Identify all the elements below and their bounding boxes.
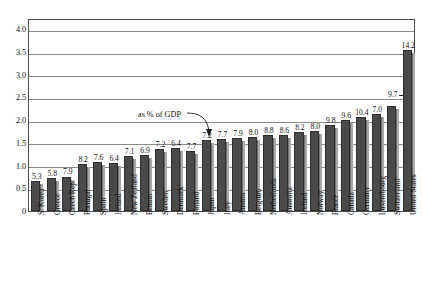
y-tick-label: 1.5 bbox=[2, 140, 26, 148]
bar-group[interactable] bbox=[277, 20, 292, 211]
bar-group[interactable] bbox=[29, 20, 44, 211]
x-tick-label: Finland bbox=[193, 192, 201, 215]
bar-group[interactable] bbox=[199, 20, 214, 211]
bars-layer: 5.35.87.98.27.66.47.16.97.26.47.77.27.77… bbox=[29, 20, 414, 211]
bar-group[interactable] bbox=[246, 20, 261, 211]
y-tick-label: 4.0 bbox=[2, 26, 26, 34]
bar-group[interactable] bbox=[91, 20, 106, 211]
y-tick-label: 3.5 bbox=[2, 49, 26, 57]
bar-group[interactable] bbox=[184, 20, 199, 211]
x-tick-label: Luxembourg bbox=[379, 176, 387, 215]
x-tick-label: Britain bbox=[146, 194, 154, 215]
y-tick-label: 2.5 bbox=[2, 94, 26, 102]
x-tick-label: Norway bbox=[317, 191, 325, 215]
x-tick-label: Sweden bbox=[162, 191, 170, 215]
x-tick-label: Spain bbox=[100, 198, 108, 215]
x-tick-label: France bbox=[332, 194, 340, 215]
x-tick-label: Belgium bbox=[255, 189, 263, 215]
x-tick-label: Germany bbox=[363, 187, 371, 215]
bar-group[interactable] bbox=[230, 20, 245, 211]
x-tick-label: Canada bbox=[348, 192, 356, 215]
bar-group[interactable] bbox=[292, 20, 307, 211]
x-tick-label: New Zealand bbox=[131, 174, 139, 215]
x-tick-label: Italy bbox=[224, 201, 232, 215]
y-tick-label: 0 bbox=[2, 208, 26, 216]
x-axis: S. KoreaGreeceCzech Rep.PortugalSpainIre… bbox=[28, 213, 415, 285]
bar-chart: 00.51.01.52.02.53.03.54.0 5.35.87.98.27.… bbox=[0, 0, 423, 285]
x-tick-label: Greece bbox=[54, 194, 62, 216]
y-tick-label: 1.0 bbox=[2, 163, 26, 171]
x-tick-label: Switzerland bbox=[394, 179, 402, 215]
y-tick-label: 0.5 bbox=[2, 185, 26, 193]
plot-area: 5.35.87.98.27.66.47.16.97.26.47.77.27.77… bbox=[28, 19, 415, 212]
x-tick-label: Denmark bbox=[177, 187, 185, 215]
x-tick-label: Portugal bbox=[84, 189, 92, 215]
x-tick-label: Japan bbox=[208, 198, 216, 215]
annotation-label: as % of GDP bbox=[138, 111, 181, 119]
bar-group[interactable] bbox=[44, 20, 59, 211]
bar-group[interactable] bbox=[215, 20, 230, 211]
x-tick-label: Australia bbox=[286, 187, 294, 215]
bar-value-label: 14.2 bbox=[399, 42, 418, 50]
x-tick-label: Czech Rep. bbox=[69, 180, 77, 215]
x-tick-label: Ireland bbox=[115, 193, 123, 215]
y-tick-label: 2.0 bbox=[2, 117, 26, 125]
x-tick-label: Netherlands bbox=[270, 178, 278, 215]
bar-group[interactable] bbox=[308, 20, 323, 211]
y-axis: 00.51.01.52.02.53.03.54.0 bbox=[0, 19, 26, 212]
bar-group[interactable] bbox=[75, 20, 90, 211]
y-tick-label: 3.0 bbox=[2, 72, 26, 80]
bar-group[interactable] bbox=[106, 20, 121, 211]
x-tick-label: Iceland bbox=[301, 193, 309, 215]
x-tick-label: S. Korea bbox=[38, 188, 46, 215]
x-tick-label: Austria bbox=[239, 193, 247, 215]
x-tick-label: United States bbox=[410, 174, 418, 215]
